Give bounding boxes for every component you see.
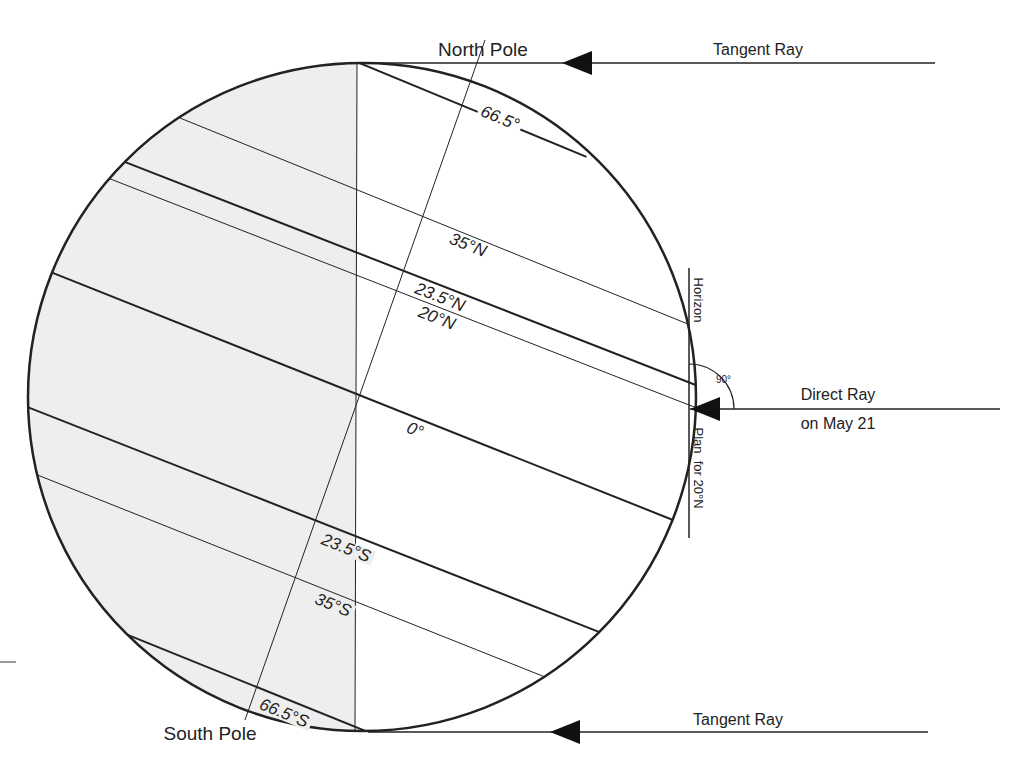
latitude-line-66.5N <box>353 60 587 157</box>
tangent-ray-bottom-label: Tangent Ray <box>693 711 783 728</box>
north-pole-label: North Pole <box>438 39 528 60</box>
plan-label: Plan for 20°N <box>691 427 706 508</box>
arrowhead-icon <box>550 720 580 744</box>
latitude-label-35N: 35°N <box>444 228 493 262</box>
direct-ray-date-label: on May 21 <box>801 415 876 432</box>
south-pole-label: South Pole <box>164 723 257 744</box>
night-side-shading <box>0 0 357 765</box>
svg-text:35°N: 35°N <box>447 229 490 261</box>
direct-ray-label: Direct Ray <box>801 386 876 403</box>
right-angle-label: 90° <box>716 374 731 385</box>
horizon-label: Horizon <box>691 278 706 323</box>
earth-illumination-diagram: 66.5°35°N23.5°N20°N0°23.5°S35°S66.5°S Ho… <box>0 0 1026 765</box>
latitude-label-66.5N: 66.5° <box>475 100 525 135</box>
arrowhead-icon <box>562 51 592 75</box>
tangent-ray-top-label: Tangent Ray <box>713 41 803 58</box>
svg-text:66.5°: 66.5° <box>478 102 522 135</box>
tangent-ray-bottom <box>368 720 928 744</box>
